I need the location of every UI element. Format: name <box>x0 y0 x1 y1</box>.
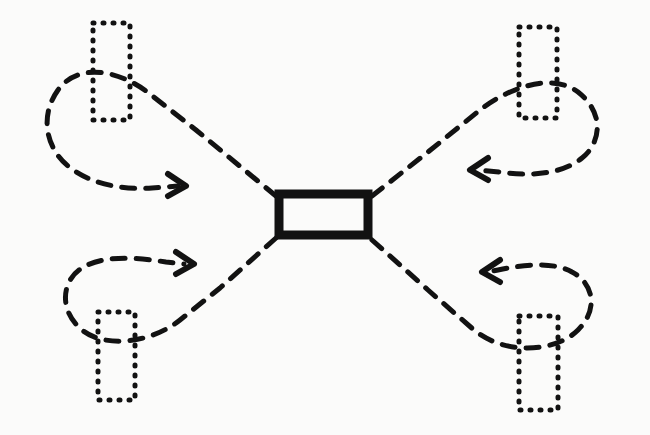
diagram-canvas <box>0 0 650 435</box>
diagram-svg <box>0 0 650 435</box>
